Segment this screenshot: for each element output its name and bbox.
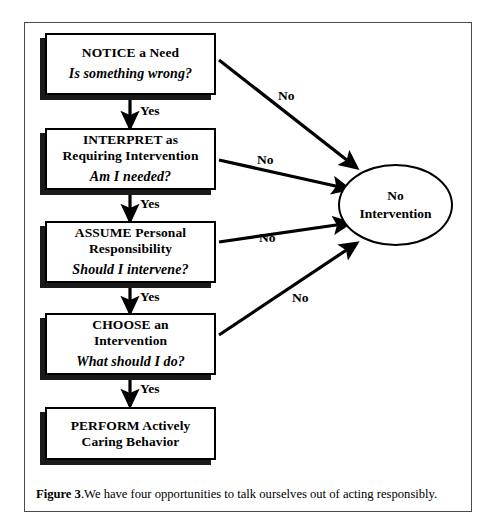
connector-assume-no	[219, 223, 350, 242]
process-question-assume: Should I intervene?	[72, 262, 188, 279]
edge-label-yes-notice: Yes	[140, 104, 160, 118]
process-question-choose: What should I do?	[76, 354, 185, 371]
connector-choose-no	[219, 243, 357, 335]
figure-caption-text: We have four opportunities to talk ourse…	[84, 487, 437, 501]
process-title-notice: NOTICE a Need	[82, 45, 179, 61]
terminal-no-intervention[interactable]: No Intervention	[338, 164, 453, 246]
figure-caption-label: Figure 3	[36, 487, 81, 501]
connector-interpret-no	[219, 160, 349, 189]
process-title-assume: ASSUME Personal Responsibility	[75, 225, 186, 257]
connector-notice-no	[219, 60, 357, 168]
edge-label-no-assume: No	[259, 231, 276, 245]
process-box-interpret[interactable]: INTERPRET as Requiring Intervention Am I…	[45, 128, 216, 190]
edge-label-yes-interpret: Yes	[140, 197, 160, 211]
terminal-label: No Intervention	[360, 187, 432, 222]
process-question-notice: Is something wrong?	[69, 66, 192, 83]
process-box-assume[interactable]: ASSUME Personal Responsibility Should I …	[45, 221, 216, 283]
process-box-choose[interactable]: CHOOSE an Intervention What should I do?	[45, 313, 216, 375]
process-question-interpret: Am I needed?	[90, 169, 171, 186]
edge-label-no-choose: No	[292, 291, 309, 305]
process-box-perform[interactable]: PERFORM Actively Caring Behavior	[45, 407, 216, 460]
edge-label-no-interpret: No	[257, 153, 274, 167]
process-title-perform: PERFORM Actively Caring Behavior	[71, 418, 191, 450]
figure-caption: Figure 3.We have four opportunities to t…	[36, 487, 462, 503]
figure-3-container: NOTICE a Need Is something wrong? INTERP…	[0, 0, 497, 529]
edge-label-yes-choose: Yes	[140, 382, 160, 396]
process-title-choose: CHOOSE an Intervention	[92, 317, 168, 349]
edge-label-yes-assume: Yes	[140, 290, 160, 304]
process-title-interpret: INTERPRET as Requiring Intervention	[62, 132, 198, 164]
edge-label-no-notice: No	[278, 89, 295, 103]
process-box-notice[interactable]: NOTICE a Need Is something wrong?	[45, 33, 216, 95]
